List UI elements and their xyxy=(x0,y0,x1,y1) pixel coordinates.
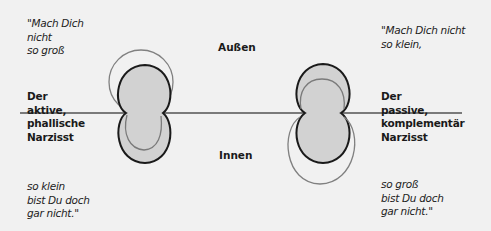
right-figure xyxy=(288,64,355,184)
right-quote-top: "Mach Dich nicht so klein, xyxy=(381,24,465,51)
left-title: Der aktive, phallische Narzisst xyxy=(27,90,85,144)
right-title: Der passive, komplementär Narzisst xyxy=(381,90,465,144)
right-quote-bottom: so groß bist Du doch gar nicht." xyxy=(381,178,444,219)
label-inside: Innen xyxy=(219,149,252,161)
left-filled-body xyxy=(118,65,170,163)
left-quote-top: "Mach Dich nicht so groß xyxy=(27,17,84,58)
label-outside: Außen xyxy=(218,41,256,53)
left-figure xyxy=(109,50,173,163)
left-quote-bottom: so klein bist Du doch gar nicht." xyxy=(27,180,90,221)
